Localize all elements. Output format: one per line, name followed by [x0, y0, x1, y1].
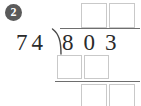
- divisor: 74: [16, 31, 47, 54]
- partial-product-tens-box[interactable]: [57, 55, 82, 79]
- remainder-tens-box[interactable]: [81, 84, 107, 106]
- long-division-problem: 2 74 803: [0, 0, 141, 106]
- dividend: 803: [62, 31, 127, 54]
- quotient-tens-box[interactable]: [81, 3, 107, 28]
- vinculum-rule: [60, 28, 140, 29]
- problem-number-badge: 2: [5, 4, 22, 21]
- remainder-ones-box[interactable]: [109, 84, 135, 106]
- partial-product-ones-box[interactable]: [84, 55, 109, 79]
- quotient-ones-box[interactable]: [109, 3, 135, 28]
- subtraction-rule: [55, 81, 140, 82]
